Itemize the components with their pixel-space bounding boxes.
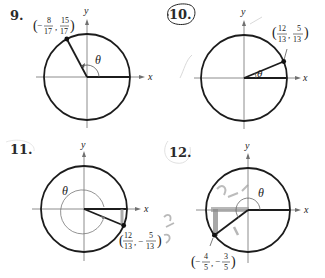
svg-text:17: 17 (60, 27, 68, 36)
svg-text:12: 12 (278, 24, 286, 33)
svg-text:θ: θ (257, 67, 263, 79)
svg-text:8: 8 (47, 16, 51, 25)
svg-text:5: 5 (149, 231, 153, 240)
svg-text:13: 13 (293, 35, 301, 44)
unit-circle-diagram: θ x y ( − 8 17 , 15 17 ) (0, 0, 162, 139)
svg-text:): ) (231, 254, 236, 270)
svg-text:13: 13 (124, 242, 132, 251)
svg-text:y: y (83, 5, 89, 16)
svg-text:y: y (240, 6, 246, 17)
svg-text:,: , (211, 258, 213, 268)
point-label: ( − 8 17 , 15 17 ) (33, 16, 75, 36)
svg-text:,: , (288, 30, 290, 40)
svg-text:15: 15 (61, 16, 69, 25)
svg-text:x: x (143, 203, 149, 214)
problem-number: 10. (169, 7, 192, 22)
unit-circle-diagram: θ x y ( 12 13 , − 5 13 ) (0, 139, 162, 278)
svg-text:θ: θ (95, 53, 101, 67)
svg-text:17: 17 (44, 27, 52, 36)
x-arrow-icon (139, 75, 145, 79)
problem-9: 9. θ x y ( − 8 17 , 15 17 ) (0, 0, 162, 139)
svg-text:(: ( (272, 25, 277, 41)
svg-text:x: x (302, 72, 308, 83)
point-label: ( − 4 5 , − 3 5 ) (191, 252, 236, 272)
svg-text:−: − (215, 256, 220, 266)
problem-number: 12. (169, 145, 192, 160)
svg-text:y: y (80, 139, 86, 150)
problem-12: θ x y ( − 4 5 , − 3 5 ) 12. (162, 139, 325, 278)
svg-text:13: 13 (278, 35, 286, 44)
svg-text:y: y (244, 140, 250, 151)
svg-text:−: − (138, 236, 143, 246)
problem-11: 11. θ x y ( 12 13 , − 5 13 ) (0, 139, 162, 278)
svg-text:): ) (70, 18, 75, 34)
y-arrow-icon (85, 19, 89, 25)
svg-text:5: 5 (224, 263, 228, 272)
problem-10: θ x y ( 12 13 , 5 13 ) 10. (162, 0, 325, 139)
svg-text:x: x (303, 204, 309, 215)
svg-text:−: − (37, 20, 42, 30)
svg-text:5: 5 (204, 263, 208, 272)
svg-text:−: − (195, 256, 200, 266)
svg-text:5: 5 (297, 24, 301, 33)
point-label: ( 12 13 , 5 13 ) (272, 24, 309, 44)
svg-text:,: , (134, 237, 136, 247)
svg-text:13: 13 (146, 242, 154, 251)
svg-text:4: 4 (204, 252, 208, 261)
point-label: ( 12 13 , − 5 13 ) (119, 231, 162, 251)
svg-text:3: 3 (224, 252, 228, 261)
svg-text:,: , (55, 22, 57, 32)
svg-text:12: 12 (124, 231, 132, 240)
svg-text:): ) (304, 25, 309, 41)
svg-text:θ: θ (62, 184, 68, 198)
svg-text:θ: θ (258, 186, 264, 200)
svg-text:x: x (147, 71, 153, 82)
